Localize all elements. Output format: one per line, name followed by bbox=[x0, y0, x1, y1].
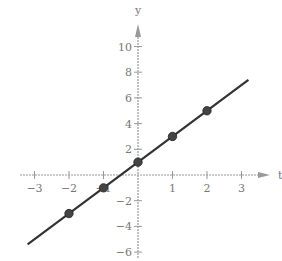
y-tick-label: −4 bbox=[116, 220, 132, 233]
y-tick-label: 10 bbox=[118, 41, 132, 54]
line-chart: ty −3−2−1123108642−2−4−6 bbox=[0, 0, 282, 261]
x-tick-label: 2 bbox=[204, 182, 211, 195]
x-axis-arrow-icon bbox=[258, 172, 270, 178]
x-tick-label: 3 bbox=[238, 182, 245, 195]
y-axis-arrow-icon bbox=[135, 24, 141, 37]
x-axis-label: t bbox=[278, 169, 282, 182]
y-tick-label: 8 bbox=[125, 66, 132, 79]
axis-ticks: −3−2−1123108642−2−4−6 bbox=[26, 41, 245, 260]
y-tick-label: 4 bbox=[125, 118, 132, 131]
data-point bbox=[134, 158, 142, 166]
x-tick-label: 1 bbox=[169, 182, 176, 195]
data-point bbox=[99, 184, 107, 192]
data-point bbox=[65, 209, 73, 217]
x-tick-label: −2 bbox=[61, 182, 77, 195]
y-tick-label: −6 bbox=[116, 246, 132, 259]
y-axis-label: y bbox=[134, 4, 142, 17]
data-point bbox=[203, 107, 211, 115]
y-tick-label: −2 bbox=[116, 195, 132, 208]
y-tick-label: 2 bbox=[125, 143, 132, 156]
x-tick-label: −3 bbox=[26, 182, 42, 195]
data-point bbox=[168, 132, 176, 140]
y-tick-label: 6 bbox=[125, 92, 132, 105]
